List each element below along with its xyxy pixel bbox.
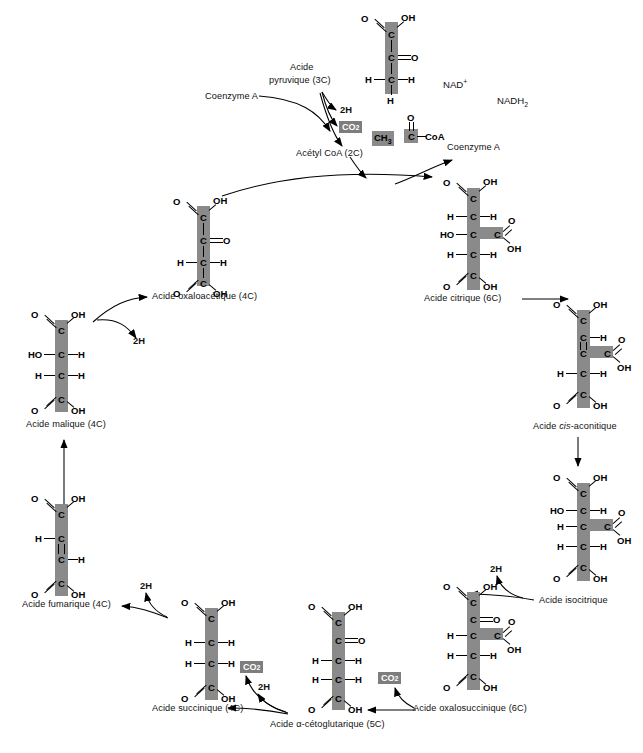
atom-hydrogen: H	[185, 638, 192, 648]
molecule-acetyl-coa: CH3 C O CoA	[372, 113, 482, 153]
atom-carbon: C	[386, 75, 397, 85]
molecule-cis-aconitic-acid: C O OH C H C C O OH C H H C O OH	[550, 300, 643, 422]
atom-hydrogen: H	[78, 371, 85, 381]
atom-hydrogen: H	[387, 96, 394, 106]
atom-oxygen: O	[31, 494, 38, 504]
atom-oxygen: O	[308, 602, 315, 612]
oxaloacetic-acid-label: Acide oxaloacétique (4C)	[152, 291, 257, 301]
atom-hydrogen: H	[557, 369, 564, 379]
atom-carbon: C	[578, 316, 589, 326]
atom-hydrogen: H	[365, 75, 372, 85]
atom-hydrogen: H	[490, 212, 497, 222]
atom-carbon: C	[468, 212, 479, 222]
nadh2-label: NADH2	[497, 95, 528, 108]
atom-hydrogen: H	[185, 659, 192, 669]
atom-hydrogen: H	[228, 638, 235, 648]
atom-hydrogen: H	[600, 542, 607, 552]
molecule-oxaloacetic-acid: C O OH C O C H H C O OH	[170, 192, 270, 292]
arrow-pyruvate-to-acetylcoa	[320, 93, 342, 146]
atom-hydrogen: H	[228, 659, 235, 669]
molecule-isocitric-acid: C O OH C HO H C H C O OH C H H C O OH	[550, 473, 643, 595]
atom-carbon-branch: C	[492, 631, 503, 641]
atom-carbon-branch: C	[492, 230, 503, 240]
arrow-succinate-to-fumarate	[122, 606, 168, 618]
atom-carbon: C	[468, 651, 479, 661]
atom-carbon: C	[468, 230, 479, 240]
atom-carbon: C	[333, 636, 344, 646]
atom-carbon: C	[406, 132, 417, 142]
atom-hydroxyl: HO	[28, 350, 42, 360]
atom-carbon: C	[333, 618, 344, 628]
atom-carbon: C	[468, 631, 479, 641]
atom-oxygen: O	[553, 401, 560, 411]
atom-hydrogen: H	[355, 656, 362, 666]
atom-hydroxyl: HO	[550, 506, 564, 516]
atom-carbon: C	[206, 638, 217, 648]
atom-hydroxyl: OH	[617, 363, 631, 373]
atom-hydrogen: H	[600, 506, 607, 516]
atom-carbon: C	[578, 369, 589, 379]
atom-hydrogen: H	[220, 258, 227, 268]
atom-hydrogen: H	[35, 534, 42, 544]
atom-hydrogen: H	[447, 651, 454, 661]
acetyl-coa-label: Acétyl CoA (2C)	[296, 148, 363, 158]
atom-hydrogen: H	[557, 542, 564, 552]
atom-hydrogen: H	[490, 250, 497, 260]
atom-carbon: C	[56, 350, 67, 360]
atom-carbon: C	[56, 579, 67, 589]
atom-carbon: C	[333, 656, 344, 666]
methyl-group: CH3	[372, 131, 394, 146]
alpha-ketoglutaric-acid-label: Acide α-cétoglutarique (5C)	[270, 719, 385, 729]
atom-carbon: C	[198, 236, 209, 246]
atom-carbon: C	[468, 271, 479, 281]
atom-oxygen: O	[173, 289, 180, 299]
atom-oxygen: O	[493, 615, 500, 625]
atom-carbon: C	[333, 675, 344, 685]
atom-carbon: C	[206, 614, 217, 624]
atom-hydrogen: H	[557, 522, 564, 532]
atom-carbon: C	[578, 542, 589, 552]
coenzyme-a-in-label: Coenzyme A	[205, 91, 258, 101]
atom-hydroxyl: HO	[440, 230, 454, 240]
atom-carbon: C	[386, 53, 397, 63]
atom-hydrogen: H	[312, 656, 319, 666]
atom-carbon: C	[468, 250, 479, 260]
atom-oxygen: O	[443, 282, 450, 292]
co2-pyruvate: CO2	[339, 121, 362, 133]
atom-carbon: C	[56, 326, 67, 336]
atom-carbon: C	[578, 563, 589, 573]
atom-hydrogen: H	[447, 250, 454, 260]
atom-hydrogen: H	[447, 631, 454, 641]
pyruvic-acid-label-line1: Acide	[290, 62, 313, 72]
molecule-citric-acid: C O OH C H H C HO C O OH C H H C O OH	[440, 174, 550, 299]
atom-oxygen: O	[223, 236, 230, 246]
atom-carbon: C	[468, 672, 479, 682]
atom-carbon: C	[468, 598, 479, 608]
atom-oxygen: O	[411, 53, 418, 63]
two-h-isocitrate: 2H	[490, 563, 502, 574]
atom-oxygen: O	[443, 582, 450, 592]
atom-carbon: C	[578, 489, 589, 499]
atom-hydrogen: H	[408, 75, 415, 85]
atom-carbon: C	[56, 534, 67, 544]
atom-oxygen: O	[553, 574, 560, 584]
atom-carbon: C	[56, 395, 67, 405]
molecule-malic-acid: C O OH C HO H C H H C O OH	[28, 310, 123, 422]
coa-group: CoA	[425, 132, 445, 142]
atom-hydrogen: H	[78, 350, 85, 360]
atom-carbon: C	[56, 555, 67, 565]
atom-carbon: C	[56, 371, 67, 381]
atom-carbon: C	[333, 694, 344, 704]
atom-carbon: C	[206, 683, 217, 693]
atom-hydrogen: H	[447, 212, 454, 222]
atom-hydrogen: H	[177, 258, 184, 268]
atom-hydrogen: H	[35, 371, 42, 381]
atom-carbon-branch: C	[602, 349, 613, 359]
atom-carbon: C	[578, 349, 589, 359]
atom-hydrogen: H	[312, 675, 319, 685]
atom-oxygen: O	[181, 598, 188, 608]
atom-carbon-branch: C	[602, 522, 613, 532]
atom-oxygen: O	[31, 406, 38, 416]
atom-hydrogen: H	[600, 333, 607, 343]
two-h-pyruvate: 2H	[340, 104, 352, 115]
